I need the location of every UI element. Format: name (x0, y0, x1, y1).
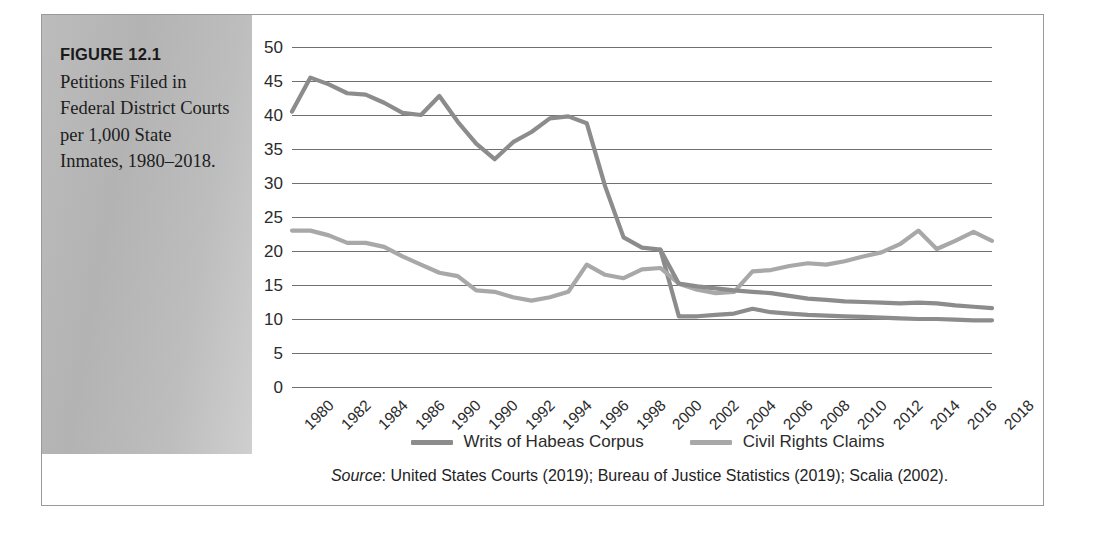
x-tick-label-7: 1994 (559, 396, 596, 433)
y-tick-label-50: 50 (264, 39, 283, 56)
x-tick-label-8: 1996 (595, 396, 632, 433)
x-tick-label-13: 2006 (780, 396, 817, 433)
y-tick-label-25: 25 (264, 209, 283, 226)
source-note: Source: United States Courts (2019); Bur… (252, 467, 1027, 485)
source-label: Source (331, 467, 382, 484)
legend-item-0[interactable]: Writs of Habeas Corpus (411, 432, 644, 452)
x-tick-label-1: 1982 (338, 396, 375, 433)
figure-number: FIGURE 12.1 (60, 45, 238, 64)
y-tick-label-35: 35 (264, 141, 283, 158)
y-tick-label-30: 30 (264, 175, 283, 192)
plot-area: 50454035302520151050 1980198219841986199… (292, 47, 992, 387)
x-tick-label-17: 2014 (927, 396, 964, 433)
x-tick-label-2: 1984 (374, 396, 411, 433)
legend-item-1[interactable]: Civil Rights Claims (690, 432, 885, 452)
x-tick-label-5: 1990 (485, 396, 522, 433)
series-lines (292, 47, 992, 387)
x-tick-label-14: 2008 (816, 396, 853, 433)
y-tick-label-40: 40 (264, 107, 283, 124)
x-tick-label-6: 1992 (522, 396, 559, 433)
y-tick-label-20: 20 (264, 243, 283, 260)
x-tick-label-18: 2016 (964, 396, 1001, 433)
chart-legend: Writs of Habeas CorpusCivil Rights Claim… (252, 432, 1043, 452)
legend-swatch-icon-0 (411, 440, 453, 445)
series-line-0-late (679, 284, 992, 308)
legend-swatch-icon-1 (690, 440, 732, 445)
caption-text-block: FIGURE 12.1 Petitions Filed in Federal D… (60, 45, 238, 174)
y-tick-label-15: 15 (264, 277, 283, 294)
y-tick-label-45: 45 (264, 73, 283, 90)
gridline-0 (292, 387, 992, 388)
y-tick-label-10: 10 (264, 311, 283, 328)
source-text: : United States Courts (2019); Bureau of… (382, 467, 949, 484)
legend-label-1: Civil Rights Claims (743, 432, 885, 452)
x-tick-label-0: 1980 (301, 396, 338, 433)
y-tick-label-5: 5 (274, 345, 283, 362)
caption-panel: FIGURE 12.1 Petitions Filed in Federal D… (42, 15, 252, 454)
x-tick-label-16: 2012 (890, 396, 927, 433)
x-tick-label-15: 2010 (853, 396, 890, 433)
x-tick-label-19: 2018 (1001, 396, 1038, 433)
chart-area: 50454035302520151050 1980198219841986199… (252, 15, 1043, 505)
y-tick-label-0: 0 (274, 379, 283, 396)
x-tick-label-4: 1990 (448, 396, 485, 433)
figure-frame: FIGURE 12.1 Petitions Filed in Federal D… (41, 14, 1044, 506)
x-tick-label-9: 1998 (632, 396, 669, 433)
x-tick-label-3: 1986 (411, 396, 448, 433)
x-tick-label-12: 2004 (743, 396, 780, 433)
x-tick-label-11: 2002 (706, 396, 743, 433)
figure-caption: Petitions Filed in Federal District Cour… (60, 69, 238, 174)
x-tick-label-10: 2000 (669, 396, 706, 433)
series-line-1 (292, 231, 992, 301)
series-line-0 (292, 78, 992, 321)
legend-label-0: Writs of Habeas Corpus (464, 432, 644, 452)
